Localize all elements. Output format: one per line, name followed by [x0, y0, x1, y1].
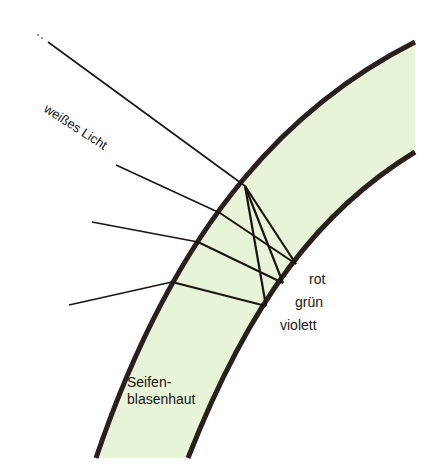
exit-ray-violet	[69, 282, 172, 305]
green-label: grün	[295, 294, 323, 311]
exit-ray-red	[116, 165, 220, 213]
soap-film-diagram	[0, 0, 447, 473]
soap-film-label-line1: Seifen-	[127, 374, 196, 391]
red-label: rot	[309, 271, 325, 288]
violet-label: violett	[280, 317, 317, 334]
exit-ray-green	[92, 222, 198, 242]
soap-film-label-line2: blasenhaut	[127, 391, 196, 408]
soap-film-label: Seifen- blasenhaut	[127, 374, 196, 408]
incident-ray	[48, 42, 245, 186]
